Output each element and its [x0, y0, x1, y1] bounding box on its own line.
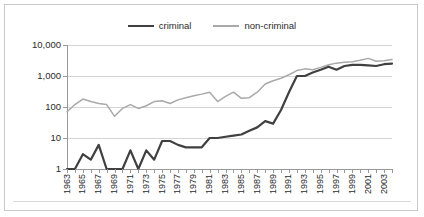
x-axis-tickmark [273, 169, 274, 173]
x-axis-tickmark [194, 169, 195, 173]
x-axis-tickmark [138, 169, 139, 173]
x-axis-tickmark [130, 169, 131, 173]
x-axis-tickmark [360, 169, 361, 173]
x-axis-tick-label: 1973 [142, 174, 151, 194]
series-lines [67, 45, 392, 169]
y-axis-tick-label: 1 [56, 164, 61, 174]
x-axis-tick-label: 1967 [94, 174, 103, 194]
x-axis-tickmark [83, 169, 84, 173]
x-axis-tick-label: 1981 [205, 174, 214, 194]
x-axis-tick-label: 1991 [284, 174, 293, 194]
x-axis-tickmark [226, 169, 227, 173]
x-axis-tickmark [210, 169, 211, 173]
x-axis-tick-label: 1969 [110, 174, 119, 194]
x-axis-tickmark [91, 169, 92, 173]
series-line-criminal [67, 64, 392, 169]
chart-frame: criminal non-criminal 10,0001,000100101 … [4, 4, 418, 211]
x-axis-tickmark [257, 169, 258, 173]
x-axis-tick-label: 2001 [364, 174, 373, 194]
y-axis-tick-label: 10 [50, 133, 61, 143]
x-axis-tickmark [186, 169, 187, 173]
y-axis-tick-label: 100 [45, 102, 61, 112]
x-axis-tickmark [368, 169, 369, 173]
x-axis-tick-label: 1989 [269, 174, 278, 194]
x-axis-tickmark [384, 169, 385, 173]
x-axis-tickmark [146, 169, 147, 173]
x-axis-tickmark [249, 169, 250, 173]
x-axis-tick-label: 1995 [316, 174, 325, 194]
x-axis-tickmark [122, 169, 123, 173]
x-axis-tick-label: 1965 [78, 174, 87, 194]
x-axis-tick-label: 1987 [253, 174, 262, 194]
x-axis-tickmark [67, 169, 68, 173]
x-axis-tickmark [154, 169, 155, 173]
x-axis-tickmark [75, 169, 76, 173]
footer-divider [13, 201, 411, 202]
x-axis-tick-label: 1985 [237, 174, 246, 194]
x-axis-tick-label: 1979 [189, 174, 198, 194]
x-axis-tickmark [305, 169, 306, 173]
x-axis-tick-label: 1977 [173, 174, 182, 194]
y-axis-tickmark [63, 76, 67, 77]
y-axis-tickmark [63, 107, 67, 108]
x-axis-tickmark [376, 169, 377, 173]
x-axis-tickmark [99, 169, 100, 173]
x-axis-tick-label: 2003 [380, 174, 389, 194]
x-axis-tick-label: 1975 [158, 174, 167, 194]
y-axis-tickmark [63, 45, 67, 46]
x-axis-tickmark [178, 169, 179, 173]
x-axis-tick-label: 1999 [348, 174, 357, 194]
x-axis-tick-label: 1983 [221, 174, 230, 194]
x-axis-tickmark [265, 169, 266, 173]
x-axis-tickmark [218, 169, 219, 173]
plot-canvas [67, 45, 392, 169]
x-axis-tick-label: 1993 [300, 174, 309, 194]
x-axis-tick-label: 1971 [126, 174, 135, 194]
y-axis-tick-label: 1,000 [37, 71, 61, 81]
x-axis-tickmark [115, 169, 116, 173]
x-axis-tickmark [233, 169, 234, 173]
y-axis-labels: 10,0001,000100101 [5, 5, 67, 212]
x-axis-tickmark [297, 169, 298, 173]
y-axis-tick-label: 10,000 [32, 40, 61, 50]
x-axis-labels: 1963196519671969197119731975197719791981… [67, 174, 392, 214]
x-axis-tickmark [392, 169, 393, 173]
x-axis-tickmark [344, 169, 345, 173]
x-axis-tickmark [281, 169, 282, 173]
plot-area: 10,0001,000100101 1963196519671969197119… [5, 5, 419, 212]
y-axis-tickmark [63, 138, 67, 139]
x-axis-tickmark [337, 169, 338, 173]
x-axis-tickmark [329, 169, 330, 173]
x-axis-tickmark [162, 169, 163, 173]
x-axis-tickmark [241, 169, 242, 173]
x-axis-tickmark [313, 169, 314, 173]
x-axis-tickmark [289, 169, 290, 173]
x-axis-tickmark [321, 169, 322, 173]
x-axis-tick-label: 1963 [63, 174, 72, 194]
x-axis-tickmark [107, 169, 108, 173]
x-axis-tickmark [352, 169, 353, 173]
x-axis-tickmark [202, 169, 203, 173]
x-axis-tick-label: 1997 [332, 174, 341, 194]
x-axis-tickmark [170, 169, 171, 173]
